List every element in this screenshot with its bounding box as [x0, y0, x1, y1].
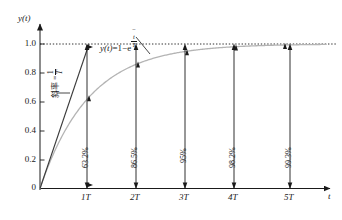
- slope-denominator: T: [56, 69, 64, 75]
- y-tick-label-6: 0: [12, 183, 36, 192]
- slope-annotation-label: 斜率 =1T: [47, 69, 65, 98]
- annotation-label-982: 98.2%: [229, 147, 237, 168]
- slope-annotation-text: 斜率 =: [51, 75, 60, 98]
- exponential-response-chart: y(t) t 1.0 0.8 0.6 0.4 0.2 0 1T 2T 3T 4T…: [0, 0, 342, 220]
- equation-lhs: y(t): [100, 43, 113, 53]
- y-tick-label-3: 0.6: [12, 97, 36, 106]
- x-tick-label-5: 5T: [284, 193, 294, 202]
- equation-exponent-sign: −: [132, 26, 136, 33]
- slope-fraction: 1T: [47, 69, 65, 75]
- equation-operator: =1−e: [113, 43, 132, 53]
- x-tick-label-2: 2T: [130, 193, 140, 202]
- equation-exponent: −tT: [131, 27, 137, 48]
- annotation-arrows: [87, 47, 290, 185]
- y-tick-label-1: 1.0: [12, 39, 36, 48]
- chart-canvas: [0, 0, 342, 220]
- x-axis-label: t: [328, 192, 331, 201]
- annotation-label-95: 95%: [180, 148, 188, 163]
- x-tick-label-1: 1T: [81, 193, 91, 202]
- x-tick-marks: [87, 184, 290, 189]
- y-tick-label-2: 0.8: [12, 68, 36, 77]
- equation-leader-line: [136, 37, 150, 54]
- annotation-label-865: 86.5%: [131, 147, 139, 168]
- y-tick-label-4: 0.4: [12, 126, 36, 135]
- x-tick-label-4: 4T: [228, 193, 238, 202]
- annotation-label-993: 99.3%: [285, 147, 293, 168]
- y-axis-label-text: y(t): [18, 13, 31, 23]
- x-tick-label-3: 3T: [179, 193, 189, 202]
- arrowheads: [85, 44, 293, 190]
- y-tick-label-5: 0.2: [12, 155, 36, 164]
- equation-exponent-denominator: T: [131, 42, 137, 49]
- y-axis-label: y(t): [18, 14, 31, 23]
- y-tick-marks: [40, 44, 45, 160]
- annotation-label-63: 63.2%: [82, 147, 90, 168]
- x-axis-label-text: t: [328, 191, 331, 201]
- curve-equation-label: y(t)=1−e−tT: [100, 27, 137, 53]
